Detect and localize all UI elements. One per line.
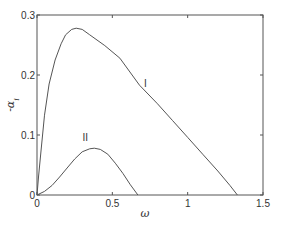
y-tick-label: 0.2	[21, 70, 35, 81]
curve-I	[37, 28, 237, 195]
x-tick-label: 0	[34, 198, 40, 209]
curve-II	[37, 148, 138, 195]
x-axis-ticks: 00.511.5	[34, 15, 270, 209]
chart: 00.511.5 00.10.20.3 III ω -αi	[0, 0, 283, 227]
plot-area-frame	[37, 15, 263, 195]
x-axis-label: ω	[141, 207, 150, 220]
y-axis-ticks: 00.10.20.3	[21, 10, 263, 201]
x-tick-label: 0.5	[105, 198, 119, 209]
x-tick-label: 1.5	[256, 198, 270, 209]
y-tick-label: 0.1	[21, 130, 35, 141]
y-tick-label: 0	[29, 190, 35, 201]
curve-label-I: I	[144, 78, 147, 89]
curve-label-II: II	[82, 132, 88, 143]
x-tick-label: 1	[185, 198, 191, 209]
curves	[37, 28, 237, 195]
y-tick-label: 0.3	[21, 10, 35, 21]
y-axis-label: -αi	[4, 98, 21, 112]
curve-labels: III	[82, 78, 146, 143]
